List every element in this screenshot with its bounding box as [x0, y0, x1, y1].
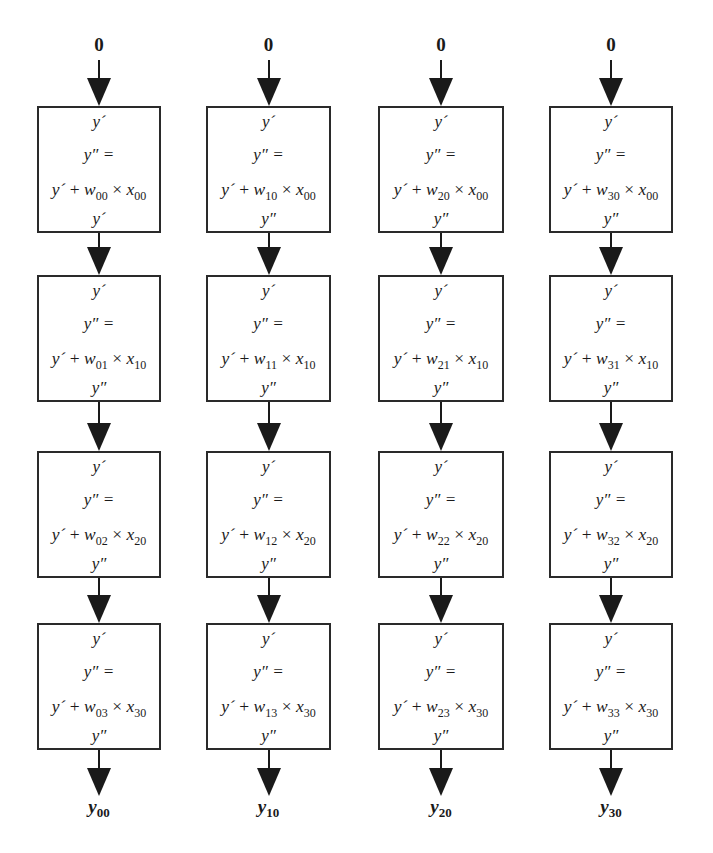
pe-output-value: y″	[39, 554, 159, 574]
expr-times: ×	[454, 179, 464, 199]
output-base: y	[600, 796, 608, 817]
pe-mac-expression: y´ + w32 × x20	[551, 524, 671, 551]
expr-weight: w	[426, 348, 438, 368]
expr-weight: w	[254, 696, 266, 716]
expr-input: x	[126, 348, 134, 368]
pe-input-value: y´	[380, 281, 502, 301]
expr-weight: w	[596, 696, 608, 716]
arrow-shaft	[268, 402, 270, 425]
expr-weight-index: 22	[438, 534, 450, 548]
expr-input-index: 20	[476, 534, 488, 548]
expr-weight-index: 21	[438, 358, 450, 372]
expr-weight-index: 03	[96, 706, 108, 720]
pe-mac-expression: y´ + w12 × x20	[208, 524, 329, 551]
input-arrow	[599, 60, 623, 106]
expr-input-index: 20	[646, 534, 658, 548]
pe-output-value: y″	[380, 209, 502, 229]
arrow-shaft	[268, 750, 270, 770]
link-arrow	[87, 233, 111, 275]
expr-input-index: 20	[304, 534, 316, 548]
expr-input-index: 10	[646, 358, 658, 372]
input-zero-label: 0	[411, 34, 471, 56]
pe-output-value: y″	[39, 726, 159, 746]
expr-weight: w	[84, 179, 96, 199]
arrow-head-icon	[87, 595, 111, 623]
arrow-head-icon	[87, 768, 111, 796]
expr-weight-index: 20	[438, 189, 450, 203]
output-arrow	[87, 750, 111, 796]
pe-mac-expression: y´ + w21 × x10	[380, 348, 502, 375]
expr-times: ×	[454, 696, 464, 716]
pe-mac-expression: y´ + w22 × x20	[380, 524, 502, 551]
pe-assignment: y″ =	[380, 662, 502, 682]
expr-input: x	[296, 179, 304, 199]
expr-y: y´	[564, 348, 578, 368]
link-arrow	[599, 578, 623, 623]
expr-times: ×	[454, 348, 464, 368]
expr-weight: w	[596, 179, 608, 199]
pe-mac-expression: y´ + w20 × x00	[380, 179, 502, 206]
output-arrow	[257, 750, 281, 796]
pe-mac-expression: y´ + w00 × x00	[39, 179, 159, 206]
pe-assignment: y″ =	[551, 314, 671, 334]
expr-times: ×	[624, 696, 634, 716]
arrow-shaft	[440, 402, 442, 425]
expr-input-index: 20	[134, 534, 146, 548]
expr-plus: +	[70, 179, 80, 199]
pe-assignment: y″ =	[380, 490, 502, 510]
expr-plus: +	[70, 696, 80, 716]
arrow-head-icon	[87, 247, 111, 275]
expr-weight-index: 01	[96, 358, 108, 372]
pe-input-value: y´	[551, 457, 671, 477]
pe-output-value: y´	[39, 209, 159, 229]
arrow-shaft	[440, 60, 442, 80]
link-arrow	[257, 578, 281, 623]
expr-y: y´	[52, 348, 66, 368]
input-arrow	[257, 60, 281, 106]
link-arrow	[257, 402, 281, 451]
arrow-head-icon	[257, 595, 281, 623]
pe-output-value: y″	[208, 726, 329, 746]
expr-input-index: 10	[476, 358, 488, 372]
expr-times: ×	[624, 524, 634, 544]
expr-times: ×	[282, 524, 292, 544]
pe-input-value: y´	[551, 629, 671, 649]
pe-input-value: y´	[380, 457, 502, 477]
output-arrow	[429, 750, 453, 796]
expr-weight: w	[254, 524, 266, 544]
expr-plus: +	[239, 524, 249, 544]
pe-mac-expression: y´ + w23 × x30	[380, 696, 502, 723]
expr-times: ×	[624, 348, 634, 368]
link-arrow	[87, 578, 111, 623]
arrow-head-icon	[257, 768, 281, 796]
processing-element-0-1: y´y″ =y´ + w01 × x10y″	[37, 275, 161, 402]
link-arrow	[87, 402, 111, 451]
pe-output-value: y″	[208, 554, 329, 574]
expr-plus: +	[412, 696, 422, 716]
pe-input-value: y´	[39, 457, 159, 477]
arrow-head-icon	[429, 595, 453, 623]
input-zero-label: 0	[581, 34, 641, 56]
expr-weight: w	[84, 524, 96, 544]
expr-weight-index: 23	[438, 706, 450, 720]
processing-element-3-3: y´y″ =y´ + w33 × x30y″	[549, 623, 673, 750]
output-index: 30	[609, 805, 622, 820]
output-label: y20	[411, 796, 471, 821]
expr-weight: w	[596, 524, 608, 544]
input-arrow	[429, 60, 453, 106]
expr-times: ×	[282, 696, 292, 716]
expr-input: x	[296, 524, 304, 544]
output-base: y	[88, 796, 96, 817]
pe-output-value: y″	[208, 209, 329, 229]
systolic-array-diagram: 0y´y″ =y´ + w00 × x00y´y´y″ =y´ + w01 × …	[0, 0, 713, 853]
pe-mac-expression: y´ + w01 × x10	[39, 348, 159, 375]
expr-input-index: 00	[476, 189, 488, 203]
expr-plus: +	[70, 524, 80, 544]
output-label: y30	[581, 796, 641, 821]
expr-weight-index: 00	[96, 189, 108, 203]
expr-y: y´	[394, 696, 408, 716]
expr-plus: +	[582, 696, 592, 716]
expr-y: y´	[52, 696, 66, 716]
expr-weight-index: 12	[265, 534, 277, 548]
expr-y: y´	[52, 524, 66, 544]
